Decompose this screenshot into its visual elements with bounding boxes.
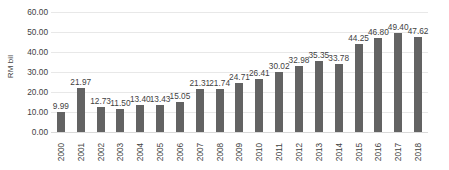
bar-slot: 35.35 [309,12,329,132]
bar-slot: 46.80 [368,12,388,132]
bar-value-label: 11.50 [110,98,130,108]
bar-value-label: 13.43 [150,94,171,104]
bar [156,105,164,132]
bar-slot: 49.40 [388,12,408,132]
bar [77,88,85,132]
x-axis-tick: 2015 [354,143,364,161]
bar-slot: 21.31 [190,12,210,132]
x-tick-slot: 2012 [289,133,309,170]
x-axis-tick: 2002 [96,143,106,161]
x-tick-slot: 2001 [71,133,91,170]
x-tick-slot: 2014 [329,133,349,170]
bar-slot: 21.74 [210,12,230,132]
bar-value-label: 32.98 [289,55,310,65]
bar-value-label: 47.62 [408,26,429,36]
x-axis-tick-labels: 2000200120022003200420052006200720082009… [51,133,428,170]
x-axis-tick: 2014 [334,143,344,161]
bar-value-label: 21.97 [70,77,91,87]
x-axis-tick: 2007 [195,143,205,161]
bar-value-label: 12.73 [90,96,111,106]
x-axis-tick: 2005 [155,143,165,161]
x-tick-slot: 2000 [51,133,71,170]
bar-value-label: 13.40 [130,94,151,104]
bar-slot: 33.78 [329,12,349,132]
bar-slot: 12.73 [91,12,111,132]
bar-value-label: 33.78 [328,53,349,63]
bar [97,107,105,132]
bar-series: 9.9921.9712.7311.5013.4013.4315.0521.312… [51,12,428,132]
x-tick-slot: 2010 [249,133,269,170]
y-axis-tick: 10.00 [14,107,48,117]
bar-slot: 13.40 [130,12,150,132]
bar [57,112,65,132]
y-axis-tick: 20.00 [14,87,48,97]
bar-value-label: 26.41 [249,68,270,78]
x-tick-slot: 2009 [230,133,250,170]
bar-slot: 24.71 [230,12,250,132]
x-tick-slot: 2005 [150,133,170,170]
x-axis-tick: 2013 [314,143,324,161]
x-tick-slot: 2008 [210,133,230,170]
bar-slot: 9.99 [51,12,71,132]
x-axis-tick: 2011 [274,143,284,161]
bar [335,64,343,132]
bar-value-label: 44.25 [348,33,369,43]
x-axis-tick: 2004 [135,143,145,161]
x-tick-slot: 2007 [190,133,210,170]
bar [136,105,144,132]
bar [414,37,422,132]
bar [295,66,303,132]
bar-slot: 13.43 [150,12,170,132]
x-tick-slot: 2017 [388,133,408,170]
bar-slot: 15.05 [170,12,190,132]
bar-slot: 11.50 [111,12,131,132]
x-axis-tick: 2000 [56,143,66,161]
plot-area: 9.9921.9712.7311.5013.4013.4315.0521.312… [51,12,428,132]
y-axis-tick: 50.00 [14,27,48,37]
y-axis-tick: 30.00 [14,67,48,77]
x-axis-tick: 2008 [215,143,225,161]
x-axis-tick: 2006 [175,143,185,161]
x-tick-slot: 2015 [349,133,369,170]
x-axis-tick: 2017 [393,143,403,161]
x-axis-tick: 2001 [76,143,86,161]
x-axis-tick: 2016 [373,143,383,161]
bar-value-label: 35.35 [308,50,329,60]
x-axis-tick: 2012 [294,143,304,161]
bar-value-label: 21.31 [189,78,210,88]
bar-value-label: 30.02 [269,61,290,71]
bar-value-label: 46.80 [368,27,389,37]
bar [255,79,263,132]
x-tick-slot: 2006 [170,133,190,170]
x-tick-slot: 2004 [130,133,150,170]
bar-chart: RM bil 0.0010.0020.0030.0040.0050.0060.0… [0,0,449,170]
bar [275,72,283,132]
bar [116,109,124,132]
x-tick-slot: 2002 [91,133,111,170]
x-axis-tick: 2003 [115,143,125,161]
bar [315,61,323,132]
x-axis-tick: 2018 [413,143,423,161]
bar [216,89,224,132]
x-tick-slot: 2011 [269,133,289,170]
x-tick-slot: 2013 [309,133,329,170]
x-tick-slot: 2018 [408,133,428,170]
bar-slot: 32.98 [289,12,309,132]
bar-value-label: 15.05 [170,91,191,101]
bar [374,38,382,132]
x-axis-tick: 2010 [254,143,264,161]
bar-value-label: 49.40 [388,22,409,32]
x-tick-slot: 2016 [368,133,388,170]
bar-value-label: 9.99 [53,101,69,111]
bar [196,89,204,132]
bar-value-label: 24.71 [229,72,250,82]
y-axis-tick: 0.00 [14,127,48,137]
y-axis-tick: 40.00 [14,47,48,57]
bar [355,44,363,133]
bar-slot: 44.25 [349,12,369,132]
bar [235,83,243,132]
x-tick-slot: 2003 [111,133,131,170]
bar-slot: 21.97 [71,12,91,132]
y-axis-tick-labels: 0.0010.0020.0030.0040.0050.0060.00 [14,0,48,170]
bar-slot: 30.02 [269,12,289,132]
